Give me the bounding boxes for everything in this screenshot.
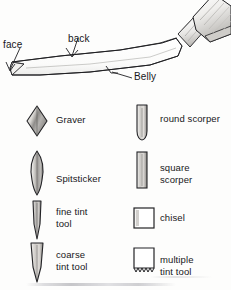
legend-label-coarse-tint-tool-line-1: coarse [56, 249, 88, 261]
legend-item-coarse-tint-tool: coarse tint tool [0, 240, 115, 286]
page-scan-artifact-secondary [150, 276, 212, 278]
legend-item-square-scorper: square scorper [116, 148, 231, 198]
graver-tool-drawing [0, 0, 231, 100]
legend-item-fine-tint-tool: fine tint tool [0, 198, 115, 242]
legend-label-coarse-tint-tool: coarse tint tool [56, 249, 88, 272]
legend-label-multiple-tint-tool: multiple tint tool [160, 254, 194, 277]
coarse-tint-tool-profile-icon [22, 240, 52, 286]
callout-label-face: face [3, 39, 22, 50]
legend-item-graver: Graver [0, 102, 115, 148]
graver-profile-icon [22, 102, 52, 148]
legend-item-chisel: chisel [116, 200, 231, 242]
callout-label-back: back [68, 33, 90, 44]
legend-label-round-scorper: round scorper [160, 113, 220, 125]
chisel-profile-icon [128, 200, 158, 242]
legend-column-right: round scorper [116, 100, 231, 285]
round-scorper-profile-icon [128, 102, 158, 148]
legend-label-fine-tint-tool: fine tint tool [56, 206, 88, 229]
legend-item-multiple-tint-tool: multiple tint tool [116, 242, 231, 286]
multiple-tint-tool-profile-icon [128, 242, 158, 286]
legend-label-chisel: chisel [160, 212, 185, 224]
legend-label-square-scorper-line-1: square [160, 162, 192, 174]
figure-page: face back Belly [0, 0, 231, 290]
legend-label-spitsticker: Spitsticker [56, 173, 101, 185]
legend-label-graver-line-1: Graver [56, 114, 86, 126]
legend-label-square-scorper-line-2: scorper [160, 174, 192, 186]
legend-label-fine-tint-tool-line-1: fine tint [56, 206, 88, 218]
legend-label-square-scorper: square scorper [160, 162, 192, 185]
legend-label-multiple-tint-tool-line-1: multiple [160, 254, 194, 266]
legend-label-chisel-line-1: chisel [160, 212, 185, 224]
square-scorper-profile-icon [128, 148, 158, 198]
legend-item-round-scorper: round scorper [116, 102, 231, 148]
legend-item-spitsticker: Spitsticker [0, 148, 115, 198]
legend-label-spitsticker-line-1: Spitsticker [56, 173, 101, 185]
legend-label-round-scorper-line-1: round scorper [160, 113, 220, 125]
legend-label-fine-tint-tool-line-2: tool [56, 218, 88, 230]
spitsticker-profile-icon [22, 148, 52, 198]
fine-tint-tool-profile-icon [22, 198, 52, 242]
graver-tool-diagram: face back Belly [0, 0, 231, 100]
legend-label-graver: Graver [56, 114, 86, 126]
blade-group [10, 38, 182, 75]
legend-column-left: Graver [0, 100, 115, 285]
tool-profile-legend: Graver [0, 100, 231, 285]
page-scan-artifact [26, 283, 176, 286]
callout-label-belly: Belly [134, 71, 156, 82]
legend-label-coarse-tint-tool-line-2: tint tool [56, 261, 88, 273]
